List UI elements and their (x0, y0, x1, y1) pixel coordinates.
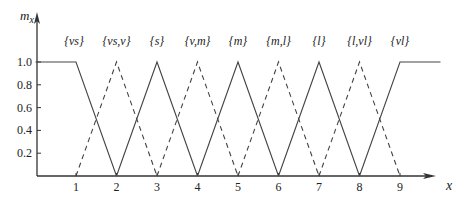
y-tick-label: 0.8 (17, 78, 32, 92)
membership-curve (238, 62, 319, 176)
y-tick-label: 0.2 (17, 146, 32, 160)
y-tick-label: 0.4 (17, 123, 32, 137)
set-label: {vl} (391, 34, 409, 48)
series-lines (36, 62, 441, 176)
x-tick-label: 8 (357, 180, 363, 194)
x-tick-label: 4 (195, 180, 201, 194)
membership-curve (157, 62, 238, 176)
membership-curve (360, 62, 441, 176)
x-tick-label: 9 (397, 180, 403, 194)
membership-curve (76, 62, 157, 176)
membership-curve (198, 62, 279, 176)
set-label: {l,vl} (347, 34, 372, 48)
set-label: {vs} (64, 34, 84, 48)
x-axis-label: x (445, 178, 453, 193)
set-label: {vs,v} (103, 34, 131, 48)
membership-curve (36, 62, 117, 176)
x-tick-label: 5 (235, 180, 241, 194)
y-tick-label: 0.6 (17, 101, 32, 115)
set-label: {v,m} (185, 34, 211, 48)
x-tick-label: 6 (276, 180, 282, 194)
x-tick-label: 3 (154, 180, 160, 194)
y-axis-label: mx (20, 8, 34, 25)
membership-curve (117, 62, 198, 176)
set-label: {m} (229, 34, 247, 48)
x-tick-label: 7 (316, 180, 322, 194)
membership-function-chart: 0.20.40.60.81.0123456789mxx {vs}{vs,v}{s… (0, 0, 468, 197)
labels: {vs}{vs,v}{s}{v,m}{m}{m,l}{l}{l,vl}{vl} (64, 34, 409, 48)
set-label: {m,l} (266, 34, 291, 48)
x-tick-label: 1 (73, 180, 79, 194)
set-label: {l} (313, 34, 326, 48)
membership-curve (319, 62, 400, 176)
x-tick-label: 2 (114, 180, 120, 194)
y-tick-label: 1.0 (17, 55, 32, 69)
membership-curve (279, 62, 360, 176)
set-label: {s} (150, 34, 164, 48)
